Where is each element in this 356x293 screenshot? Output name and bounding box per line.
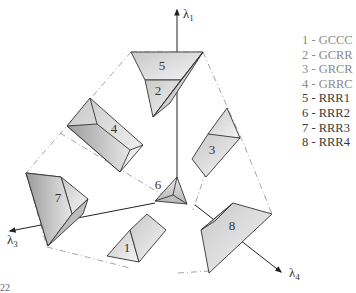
region-5-2-shape (131, 52, 203, 117)
region-7-shape (26, 173, 88, 246)
region-label-2: 2 (155, 83, 162, 98)
legend-item: 1 - GCCC (302, 33, 353, 48)
legend-item: 7 - RRR3 (302, 121, 353, 136)
region-8-shape (201, 203, 272, 273)
legend-item: 4 - GRRC (302, 77, 353, 92)
legend-item: 6 - RRR2 (302, 106, 353, 121)
region-label-3: 3 (209, 142, 216, 157)
region-label-4: 4 (111, 121, 118, 136)
legend-item: 8 - RRR4 (302, 135, 353, 150)
region-4-shape (67, 98, 143, 172)
region-label-6: 6 (155, 177, 162, 192)
region-label-8: 8 (229, 218, 236, 233)
region-label-1: 1 (124, 240, 131, 255)
region-3-shape (192, 108, 240, 177)
legend: 1 - GCCC 2 - GCRR 3 - GRCR 4 - GRRC 5 - … (302, 33, 353, 150)
region-label-7: 7 (55, 190, 62, 205)
cropped-text-fragment: 22 (0, 282, 10, 293)
legend-item: 2 - GCRR (302, 48, 353, 63)
axis-label-lambda4: λ4 (289, 265, 300, 282)
legend-item: 3 - GRCR (302, 62, 353, 77)
axis-label-lambda1: λ1 (183, 6, 194, 23)
axis-label-lambda3: λ3 (7, 232, 18, 249)
legend-item: 5 - RRR1 (302, 91, 353, 106)
region-label-5: 5 (159, 58, 166, 73)
region-1-shape (107, 214, 166, 262)
